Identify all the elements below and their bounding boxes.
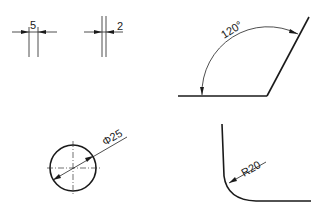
diameter-label-25: Φ25 xyxy=(100,127,124,148)
dimension-label-2: 2 xyxy=(117,20,123,32)
arrowhead-icon xyxy=(106,30,114,34)
radius-label-20: R20 xyxy=(239,158,262,178)
dimensioning-drawing: 5 2 120° Φ25 R20 xyxy=(0,0,321,215)
angle-arc xyxy=(202,27,298,95)
angular-dimension-120: 120° xyxy=(178,17,309,96)
linear-dimension-5: 5 xyxy=(12,19,57,57)
linear-dimension-2: 2 xyxy=(84,16,123,57)
slanted-edge xyxy=(267,17,309,96)
radius-dimension-20: R20 xyxy=(222,124,311,201)
arrowhead-icon xyxy=(229,177,237,183)
arrowhead-icon xyxy=(94,30,102,34)
arrowhead-icon xyxy=(289,29,298,34)
arrowhead-icon xyxy=(53,174,61,180)
dimension-label-5: 5 xyxy=(30,19,36,31)
diameter-dimension-25: Φ25 xyxy=(47,127,127,196)
arrowhead-icon xyxy=(21,30,29,34)
arrowhead-icon xyxy=(200,87,204,95)
rounded-corner-outline xyxy=(222,124,311,201)
arrowhead-icon xyxy=(38,30,46,34)
